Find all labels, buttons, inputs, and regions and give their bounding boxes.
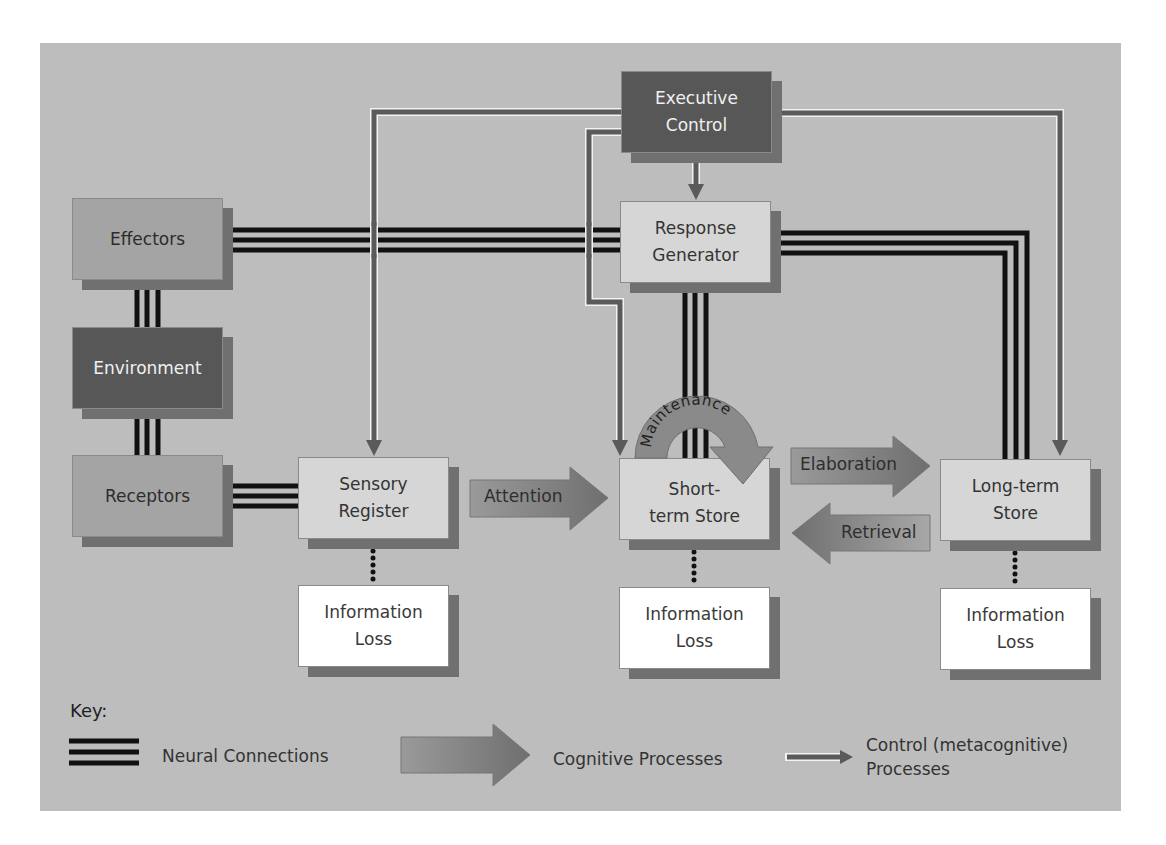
sensory-register-node: Sensory Register [298,457,449,539]
node-label: Effectors [110,226,185,253]
receptors-node: Receptors [72,455,223,537]
long-term-store-node: Long-term Store [940,459,1091,541]
key-neural-icon [69,741,139,763]
key-cognitive-label: Cognitive Processes [553,747,723,771]
node-label: Long-term Store [972,473,1060,527]
connections-layer [0,0,1166,845]
effectors-node: Effectors [72,198,223,280]
environment-node: Environment [72,327,223,409]
node-label: Information Loss [324,599,422,653]
executive-control-node: Executive Control [621,71,772,153]
node-label: Information Loss [645,601,743,655]
key-control-label: Control (metacognitive) Processes [866,733,1068,781]
node-label: Receptors [105,483,190,510]
node-label: Information Loss [966,602,1064,656]
key-neural-label: Neural Connections [162,744,329,768]
key-control-arrow [785,750,853,764]
node-label: Sensory Register [339,471,409,525]
elaboration-label: Elaboration [800,454,897,474]
node-label: Short- term Store [649,476,740,530]
info-loss-long-term-node: Information Loss [940,588,1091,670]
attention-label: Attention [484,486,562,506]
retrieval-label: Retrieval [841,522,917,542]
node-label: Environment [93,355,202,382]
node-label: Response Generator [652,215,738,269]
key-title: Key: [70,700,107,721]
key-cognitive-arrow [401,724,530,786]
info-loss-sensory-node: Information Loss [298,585,449,667]
short-term-store-node: Short- term Store [619,458,770,540]
info-loss-short-term-node: Information Loss [619,587,770,669]
node-label: Executive Control [655,85,738,139]
response-generator-node: Response Generator [620,201,771,283]
